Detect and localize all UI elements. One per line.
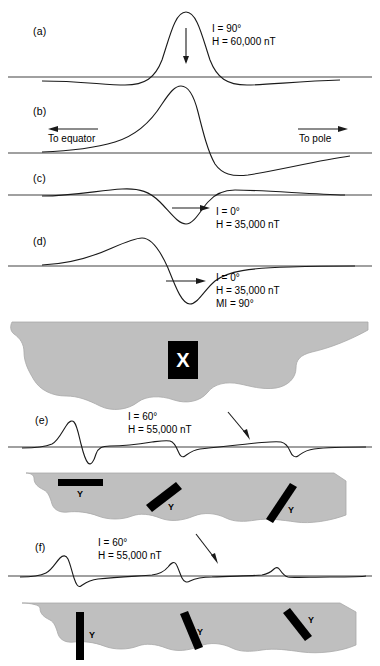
annotation-d-line-1: I = 0°	[216, 271, 280, 284]
annotation-a-line-2: H = 60,000 nT	[212, 35, 276, 48]
dike-label-y-bottom-3: Y	[308, 615, 314, 625]
to-equator-arrow-head	[48, 126, 58, 132]
dike-horizontal-middle	[58, 479, 103, 486]
dike-vertical-bottom	[76, 612, 84, 660]
panel-c-curve	[42, 189, 345, 224]
panel-e-field-arrow-head	[243, 429, 250, 440]
panel-e-curve	[22, 421, 366, 464]
body-marker-x: X	[168, 341, 198, 379]
panel-f-graphics	[8, 534, 372, 587]
dike-label-y-middle-1: Y	[77, 489, 83, 499]
panel-b-curve	[42, 86, 350, 176]
annotation-e-line-1: I = 60°	[128, 410, 192, 423]
panel-label-a: (a)	[33, 25, 46, 37]
dike-label-y-bottom-1: Y	[89, 630, 95, 640]
figure-graphics	[0, 0, 380, 666]
annotation-d-line-3: MI = 90°	[216, 297, 280, 310]
annotation-panel-c: I = 0° H = 35,000 nT	[216, 205, 280, 231]
direction-label-to-pole: To pole	[299, 133, 331, 144]
direction-label-to-equator: To equator	[48, 133, 95, 144]
annotation-c-line-1: I = 0°	[216, 205, 280, 218]
panel-label-c: (c)	[33, 172, 46, 184]
panel-f-field-arrow-head	[211, 553, 218, 564]
panel-label-b: (b)	[33, 105, 46, 117]
panel-a-field-arrow-head	[183, 56, 189, 64]
annotation-e-line-2: H = 55,000 nT	[128, 423, 192, 436]
panel-label-f: (f)	[35, 541, 46, 553]
panel-d-graphics	[8, 238, 372, 304]
panel-a-curve	[42, 12, 340, 85]
dike-label-y-middle-3: Y	[288, 505, 294, 515]
annotation-f-line-1: I = 60°	[98, 536, 162, 549]
annotation-a-line-1: I = 90°	[212, 22, 276, 35]
annotation-c-line-2: H = 35,000 nT	[216, 218, 280, 231]
panel-a-graphics	[8, 12, 372, 85]
dike-label-y-bottom-2: Y	[197, 627, 203, 637]
panel-d-curve	[42, 238, 355, 304]
geology-body-y-bottom	[22, 603, 356, 660]
annotation-panel-a: I = 90° H = 60,000 nT	[212, 22, 276, 48]
panel-b-graphics	[8, 86, 372, 176]
panel-f-curve	[20, 556, 366, 587]
annotation-panel-d: I = 0° H = 35,000 nT MI = 90°	[216, 271, 280, 311]
annotation-panel-f: I = 60° H = 55,000 nT	[98, 536, 162, 562]
panel-label-d: (d)	[33, 235, 46, 247]
panel-c-graphics	[8, 189, 372, 224]
panel-d-field-arrow-head	[196, 278, 206, 284]
magnetic-anomaly-figure: (a) (b) (c) (d) (e) (f) I = 90° H = 60,0…	[0, 0, 380, 666]
dike-label-y-middle-2: Y	[168, 502, 174, 512]
annotation-d-line-2: H = 35,000 nT	[216, 284, 280, 297]
annotation-panel-e: I = 60° H = 55,000 nT	[128, 410, 192, 436]
annotation-f-line-2: H = 55,000 nT	[98, 549, 162, 562]
to-pole-arrow-head	[338, 126, 348, 132]
geology-body-y-middle	[26, 473, 346, 523]
panel-label-e: (e)	[35, 414, 48, 426]
